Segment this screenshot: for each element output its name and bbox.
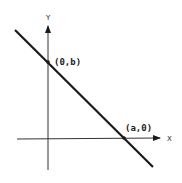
diagram-canvas: Y X (0,b) (a,0) <box>0 0 182 183</box>
y-axis-label: Y <box>45 14 51 22</box>
x-axis <box>17 138 160 139</box>
intercept-line <box>15 30 153 167</box>
x-intercept-point <box>122 136 126 140</box>
x-intercept-label: (a,0) <box>125 123 152 133</box>
y-intercept-label: (0,b) <box>54 57 81 67</box>
x-axis-label: X <box>167 135 172 143</box>
y-intercept-point <box>46 60 50 64</box>
line-intercept-diagram: Y X (0,b) (a,0) <box>0 0 182 183</box>
